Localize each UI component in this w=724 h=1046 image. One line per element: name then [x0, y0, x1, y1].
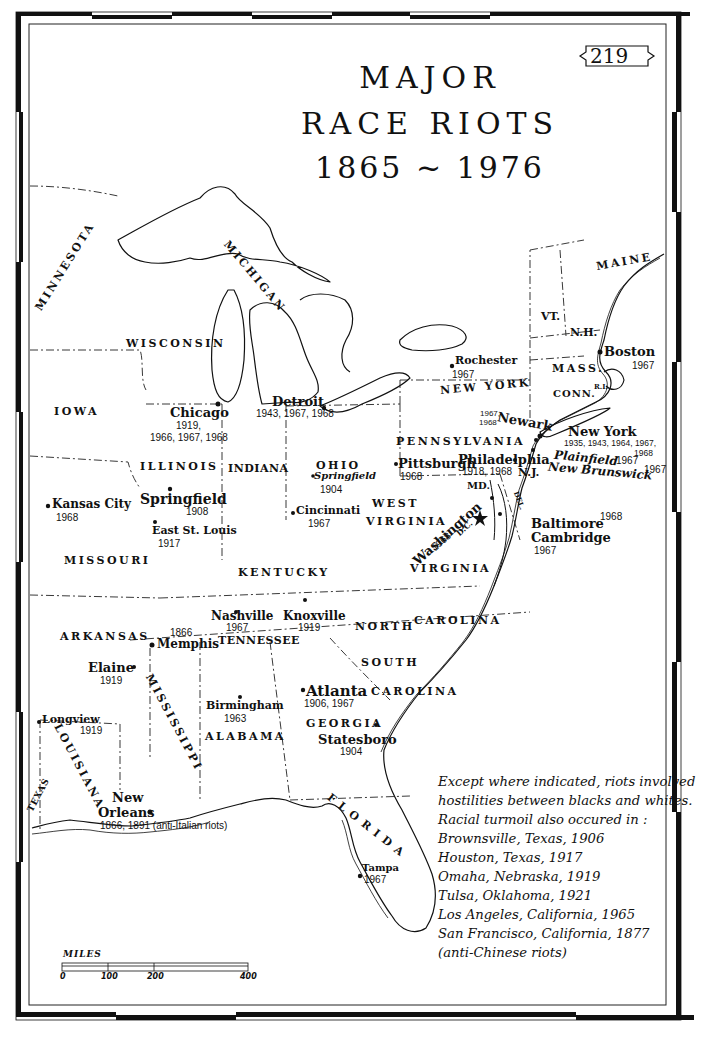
- city-rochester-years: 1967: [452, 369, 474, 380]
- scale-bar: [62, 963, 248, 971]
- scale-tick-200: 200: [147, 972, 164, 981]
- city-new-orleans-years: 1866, 1891 (anti-Italian riots): [100, 820, 227, 831]
- lake-erie: [320, 373, 410, 412]
- city-cambridge: Cambridge: [531, 530, 611, 545]
- state-label-wisconsin: WISCONSIN: [126, 337, 225, 350]
- legend-line: Tulsa, Oklahoma, 1921: [438, 886, 688, 905]
- state-label-md: MD.: [467, 480, 490, 491]
- lower-michigan: [249, 303, 318, 404]
- state-label-south: SOUTH: [361, 656, 419, 669]
- city-tampa-years: 1967: [364, 874, 386, 885]
- city-nashville: Nashville: [211, 609, 274, 623]
- city-cambridge-years: 1967: [534, 545, 556, 556]
- city-philadelphia: Philadelphia: [458, 452, 550, 467]
- state-label-nh: N.H.: [570, 326, 597, 339]
- city-baltimore-years: 1968: [600, 511, 622, 522]
- city-new-brunswick-years: 1967: [644, 464, 666, 475]
- city-plainfield-years: 1967: [616, 455, 638, 466]
- florida-west-coast: [32, 798, 392, 916]
- state-label-pennsylvania: PENNSYLVANIA: [396, 435, 525, 448]
- city-east-st-louis: East St. Louis: [152, 524, 237, 537]
- state-label-south-carolina: CAROLINA: [371, 685, 458, 698]
- city-detroit: Detroit: [272, 394, 324, 409]
- legend-line: Los Angeles, California, 1965: [438, 905, 688, 924]
- state-label-kentucky: KENTUCKY: [238, 566, 330, 579]
- state-label-alabama: ALABAMA: [205, 730, 286, 743]
- state-label-iowa: IOWA: [54, 405, 99, 418]
- state-label-nj: N.J.: [518, 466, 539, 479]
- page-number: 219: [590, 44, 628, 68]
- city-statesboro-years: 1904: [340, 746, 362, 757]
- city-springfield-illinois-years: 1908: [186, 506, 208, 517]
- legend-line: Except where indicated, riots involved: [438, 772, 688, 791]
- legend-line: Houston, Texas, 1917: [438, 848, 688, 867]
- title-line-1: MAJOR: [300, 60, 560, 95]
- state-label-georgia: GEORGIA: [306, 717, 383, 730]
- city-elaine: Elaine: [88, 660, 134, 675]
- lake-ontario: [400, 325, 466, 351]
- city-knoxville: Knoxville: [283, 609, 346, 623]
- state-label-west-virginia: VIRGINIA: [366, 515, 447, 528]
- city-chicago-years-2: 1966, 1967, 1968: [150, 432, 228, 443]
- legend-line: Brownsville, Texas, 1906: [438, 829, 688, 848]
- city-chicago-years: 1919,: [176, 420, 201, 431]
- city-east-st-louis-years: 1917: [158, 538, 180, 549]
- city-philadelphia-years: 1918, 1968: [462, 466, 512, 477]
- city-nashville-years: 1967: [226, 622, 248, 633]
- state-label-illinois: ILLINOIS: [140, 460, 219, 473]
- legend-note: Except where indicated, riots involved h…: [438, 772, 688, 962]
- city-springfield-illinois: Springfield: [140, 491, 227, 507]
- city-kansas-city: Kansas City: [52, 497, 131, 511]
- city-boston-years: 1967: [632, 360, 654, 371]
- city-new-orleans-line1: New: [112, 790, 143, 805]
- state-label-north-carolina: CAROLINA: [414, 614, 501, 627]
- city-longview-years: 1919: [80, 725, 102, 736]
- title-line-3: 1865 ~ 1976: [300, 150, 560, 185]
- state-label-tennessee: TENNESSEE: [218, 634, 300, 647]
- city-knoxville-years: 1919: [298, 622, 320, 633]
- state-label-indiana: INDIANA: [228, 462, 289, 475]
- legend-line: San Francisco, California, 1877: [438, 924, 688, 943]
- legend-line: Racial turmoil also occured in :: [438, 810, 688, 829]
- city-new-york-years: 1935, 1943, 1964, 1967,: [564, 438, 656, 448]
- scale-tick-0: 0: [60, 972, 66, 981]
- city-springfield-ohio: Springfield: [314, 470, 376, 481]
- city-new-york: New York: [568, 424, 637, 439]
- city-atlanta-years: 1906, 1967: [304, 698, 354, 709]
- city-birmingham: Birmingham: [206, 699, 284, 712]
- city-cincinnati: Cincinnati: [296, 504, 360, 517]
- scale-title: MILES: [63, 949, 102, 959]
- state-label-arkansas: ARKANSAS: [60, 630, 150, 643]
- state-label-missouri: MISSOURI: [64, 554, 150, 567]
- state-label-north: NORTH: [355, 620, 415, 633]
- city-cincinnati-years: 1967: [308, 518, 330, 529]
- legend-line: Omaha, Nebraska, 1919: [438, 867, 688, 886]
- state-label-ri: R.I.: [594, 382, 608, 391]
- city-baltimore: Baltimore: [531, 516, 604, 531]
- city-pittsburgh-years: 1968: [400, 471, 422, 482]
- city-elaine-years: 1919: [100, 675, 122, 686]
- city-newark-years-2: 1968: [479, 418, 497, 427]
- title-line-2: RACE RIOTS: [300, 106, 560, 141]
- state-label-west: WEST: [372, 497, 419, 510]
- city-statesboro: Statesboro: [318, 732, 397, 747]
- city-birmingham-years: 1963: [224, 713, 246, 724]
- legend-line: (anti-Chinese riots): [438, 943, 688, 962]
- city-detroit-years: 1943, 1967, 1968: [256, 408, 334, 419]
- legend-line: hostilities between blacks and whites.: [438, 791, 688, 810]
- city-rochester: Rochester: [455, 354, 517, 367]
- city-chicago: Chicago: [170, 405, 229, 420]
- city-new-orleans-line2: Orleans: [98, 805, 155, 820]
- state-label-mass: MASS.: [552, 362, 604, 375]
- state-label-vt: VT.: [541, 310, 560, 323]
- lake-superior: [118, 187, 330, 282]
- scale-tick-400: 400: [240, 972, 257, 981]
- city-springfield-ohio-years: 1904: [320, 484, 342, 495]
- city-kansas-city-years: 1968: [56, 512, 78, 523]
- scale-tick-100: 100: [101, 972, 118, 981]
- city-memphis: Memphis: [157, 637, 219, 651]
- city-tampa: Tampa: [362, 862, 399, 873]
- state-label-conn: CONN.: [553, 388, 596, 399]
- city-boston: Boston: [604, 344, 655, 359]
